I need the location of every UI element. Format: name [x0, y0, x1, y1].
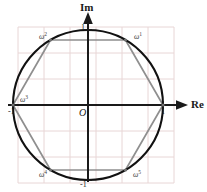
tick-label-im-negative-one: -1: [80, 181, 87, 189]
vertex-omega4: [49, 168, 52, 171]
tick-label-re-positive-one: 1: [161, 108, 165, 116]
root-label-omega2: ω2: [39, 33, 47, 41]
omega5-exponent: 5: [138, 169, 141, 175]
imaginary-axis-label: Im: [80, 2, 93, 13]
root-label-omega5: ω5: [133, 171, 141, 179]
vertex-omega2: [49, 38, 52, 41]
root-label-omega1: ω1: [134, 33, 142, 41]
omega2-exponent: 2: [44, 31, 47, 37]
root-label-omega3: ω3: [20, 96, 28, 104]
vertex-omega5: [124, 168, 127, 171]
omega3-exponent: 3: [25, 94, 28, 100]
omega4-exponent: 4: [44, 169, 47, 175]
vertex-omega1: [124, 38, 127, 41]
root-label-omega4: ω4: [39, 171, 47, 179]
complex-plane-figure: Im Re O 1 -1 -1 1 ω1 ω2 ω3 ω4 ω5: [0, 0, 207, 192]
tick-label-im-positive-one: 1: [81, 24, 85, 32]
omega1-exponent: 1: [139, 31, 142, 37]
real-axis-arrow-icon: [176, 100, 188, 110]
origin-label: O: [79, 108, 86, 118]
tick-label-re-negative-one: -1: [8, 108, 15, 116]
real-axis-label: Re: [191, 99, 204, 110]
roots-of-unity-diagram: [0, 0, 207, 192]
